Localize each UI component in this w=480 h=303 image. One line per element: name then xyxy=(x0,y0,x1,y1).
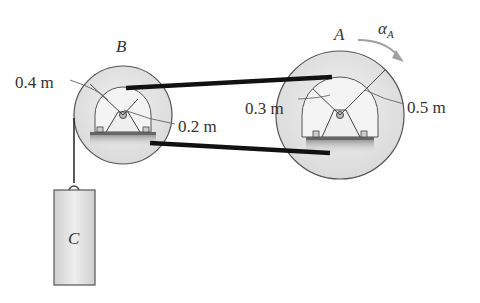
pulley-a-label: A xyxy=(333,25,345,44)
block-c-label: C xyxy=(68,229,80,248)
pulley-b-inner-radius: 0.2 m xyxy=(178,117,217,136)
pulley-system-diagram: B 0.4 m 0.2 m A 0.3 m 0.5 m αA C xyxy=(0,0,480,303)
pulley-a-outer-radius: 0.5 m xyxy=(407,98,446,117)
pulley-a-inner-radius: 0.3 m xyxy=(245,99,284,118)
pulley-b-outer-radius: 0.4 m xyxy=(15,73,54,92)
pulley-a xyxy=(276,51,404,179)
pulley-b-label: B xyxy=(116,37,127,56)
alpha-a-label: αA xyxy=(378,19,394,40)
pulley-b xyxy=(74,66,172,164)
